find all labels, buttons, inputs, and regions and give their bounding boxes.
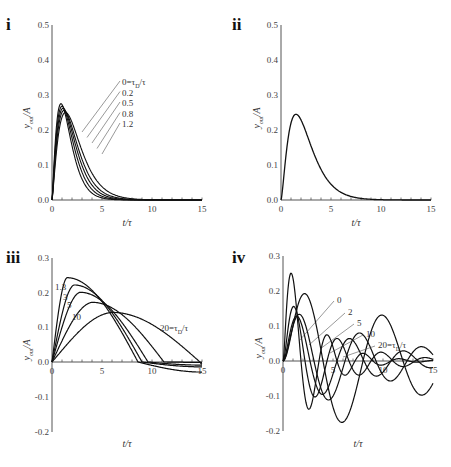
x-tick-label: 0 [50, 204, 55, 214]
panel-label-iv: iv [232, 248, 246, 267]
y-tick-label: 0.5 [38, 20, 50, 30]
x-tick-label: 5 [100, 366, 105, 376]
x-tick-label: 10 [148, 366, 158, 376]
panel-iii: iii 0.3 0.2 0.1 0.0 -0.1 -0.2 0 5 10 15 … [6, 248, 207, 449]
x-axis-title: t/τ [351, 217, 361, 228]
series-label: 5 [67, 300, 72, 310]
x-tick-label: 0 [281, 365, 286, 375]
y-tick-label: 0.0 [267, 195, 279, 205]
y-tick-label: 0.1 [269, 321, 280, 331]
series-annotations: 0=τD/τ0.20.50.81.2 [82, 77, 146, 154]
y-tick-label: 0.2 [38, 288, 49, 298]
y-tick-label: 0.1 [38, 322, 49, 332]
x-axis-title: t/τ [353, 438, 363, 449]
y-tick-label: 0.4 [267, 55, 279, 65]
svg-text:yout/A: yout/A [253, 337, 266, 360]
data-series [281, 114, 431, 200]
series-line [281, 114, 431, 200]
x-axis-title: t/τ [122, 438, 132, 449]
x-tick-label: 0 [50, 366, 55, 376]
y-tick-label: 0.5 [267, 20, 279, 30]
x-tick-label: 15 [198, 366, 208, 376]
y-tick-label: 0.0 [269, 356, 281, 366]
x-tick-label: 15 [429, 365, 439, 375]
y-tick-label: -0.2 [35, 427, 49, 437]
y-tick-label: 0.2 [269, 286, 280, 296]
y-axis-title: yout/A [251, 107, 264, 130]
x-tick-label: 0 [279, 204, 284, 214]
y-tick-label: 0.3 [267, 90, 279, 100]
data-series [283, 273, 433, 422]
series-label: 0 [337, 295, 342, 305]
data-series [52, 278, 202, 372]
y-axis-title: yout/A [21, 107, 34, 130]
series-label: 20=τD/τ [378, 340, 407, 352]
y-axis-title: yout/A [253, 337, 266, 360]
series-line [283, 294, 433, 423]
y-tick-label: 0.3 [38, 90, 50, 100]
series-label: 0.8 [122, 109, 134, 119]
y-tick-label: 0.2 [38, 125, 49, 135]
x-tick-label: 15 [427, 204, 437, 214]
x-axis-title: t/τ [122, 217, 132, 228]
x-tick-label: 15 [198, 204, 208, 214]
y-tick-label: -0.1 [266, 391, 280, 401]
y-axis-title: yout/A [21, 339, 34, 362]
series-label: 2 [348, 307, 353, 317]
panel-label-iii: iii [6, 248, 20, 267]
y-tick-label: -0.1 [35, 392, 49, 402]
series-label: 1.3 [55, 282, 67, 292]
panel-i: i 0.5 0.4 0.3 0.2 0.1 0.0 0 5 10 15 t/τ … [6, 15, 207, 228]
svg-text:yout/A: yout/A [251, 107, 264, 130]
series-label: 1.2 [122, 119, 133, 129]
svg-text:yout/A: yout/A [21, 107, 34, 130]
panel-ii: ii 0.5 0.4 0.3 0.2 0.1 0.0 0 5 10 15 t/τ… [232, 15, 436, 228]
y-tick-label: 0.1 [38, 160, 49, 170]
x-tick-label: 10 [377, 204, 387, 214]
series-label: 10 [72, 312, 82, 322]
x-tick-label: 5 [329, 204, 334, 214]
figure: i 0.5 0.4 0.3 0.2 0.1 0.0 0 5 10 15 t/τ … [0, 0, 451, 467]
series-label: 20=τD/τ [160, 323, 189, 335]
x-tick-label: 5 [100, 204, 105, 214]
y-tick-label: 0.4 [38, 55, 50, 65]
series-label: 10 [366, 329, 376, 339]
panel-label-i: i [6, 15, 11, 34]
series-label: 5 [357, 318, 362, 328]
panel-label-ii: ii [232, 15, 242, 34]
panel-iv: iv 0.3 0.2 0.1 0.0 -0.1 -0.2 0 5 10 15 t… [232, 248, 438, 449]
series-label: 0.2 [122, 88, 133, 98]
y-tick-label: 0.1 [267, 160, 278, 170]
series-line [52, 278, 202, 372]
y-tick-label: 0.0 [38, 195, 50, 205]
x-tick-label: 10 [148, 204, 158, 214]
series-label: 0.5 [122, 98, 134, 108]
y-tick-label: 0.3 [269, 251, 281, 261]
y-tick-label: -0.2 [266, 426, 280, 436]
y-tick-label: 0.0 [38, 357, 50, 367]
y-tick-label: 0.2 [267, 125, 278, 135]
svg-text:yout/A: yout/A [21, 339, 34, 362]
y-tick-label: 0.3 [38, 253, 50, 263]
